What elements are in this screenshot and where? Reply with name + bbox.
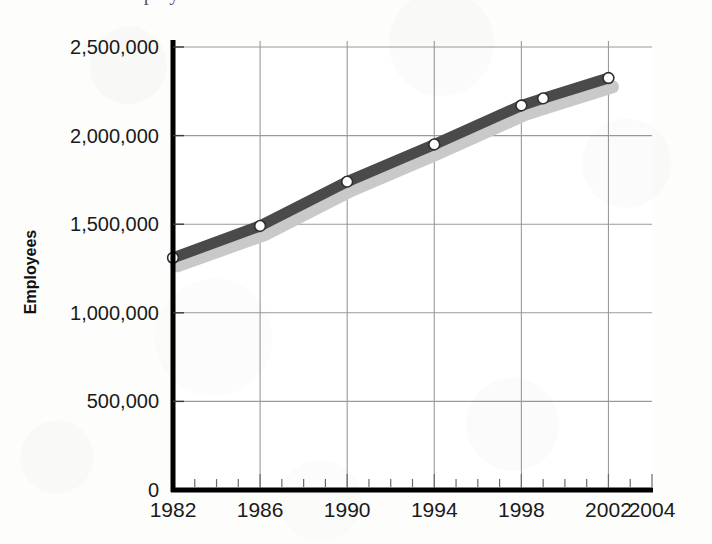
employees-line-chart: 0500,0001,000,0001,500,0002,000,0002,500… (0, 0, 712, 544)
data-point-marker (429, 139, 440, 150)
x-tick-label: 2002 (585, 498, 632, 521)
y-tick-label: 1,500,000 (70, 213, 159, 235)
x-tick-label: 1982 (150, 498, 197, 521)
x-tick-labels: 1982198619901994199820022004 (150, 498, 676, 521)
x-tick-label: 1998 (498, 498, 545, 521)
x-tick-label: 1994 (411, 498, 458, 521)
y-tick-label: 500,000 (87, 390, 159, 412)
plot-background (172, 44, 652, 490)
data-point-marker (516, 100, 527, 111)
y-axis-title: Employees (22, 230, 39, 315)
x-tick-label: 1990 (324, 498, 371, 521)
y-tick-label: 2,000,000 (70, 125, 159, 147)
chart-page: Employees 0500,0001,000,0001,500,0002,00… (0, 0, 712, 544)
data-point-marker (538, 93, 549, 104)
x-tick-label: 1986 (237, 498, 284, 521)
data-point-marker (342, 176, 353, 187)
y-tick-label: 2,500,000 (70, 36, 159, 58)
y-tick-label: 1,000,000 (70, 302, 159, 324)
y-tick-labels: 0500,0001,000,0001,500,0002,000,0002,500… (70, 36, 159, 501)
x-tick-label: 2004 (629, 498, 676, 521)
data-point-marker (603, 73, 614, 84)
data-point-marker (255, 221, 266, 232)
